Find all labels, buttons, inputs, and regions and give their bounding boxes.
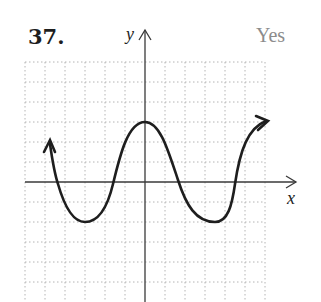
y-axis-label: y (126, 24, 134, 45)
axes (25, 30, 296, 302)
curve (44, 116, 268, 222)
graph (0, 0, 321, 302)
x-axis-label: x (287, 188, 295, 209)
